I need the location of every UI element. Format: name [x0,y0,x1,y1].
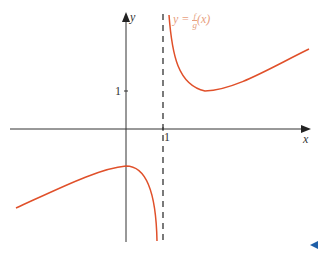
previous-arrow-icon[interactable] [310,241,318,249]
curve-lower-branch [16,166,157,241]
curve-equation-label: y = fg(x) [173,12,210,29]
x-axis-label: x [303,132,308,147]
y-tick-label: 1 [115,84,121,99]
y-axis-label: y [130,10,135,25]
equation-prefix: y = [173,12,192,26]
equation-suffix: (x) [197,12,210,26]
x-tick-label: 1 [164,130,170,145]
y-axis-arrow-icon [122,12,130,22]
